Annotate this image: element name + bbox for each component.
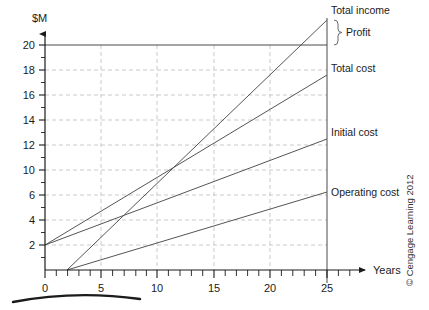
y-tick-label: 12 <box>23 139 35 151</box>
y-axis-title: $M <box>32 12 47 24</box>
x-axis-major-ticks <box>45 270 327 278</box>
y-tick-label: 18 <box>23 64 35 76</box>
series-label-initial-cost: Initial cost <box>331 126 378 138</box>
x-axis-minor-ticks <box>56 270 350 276</box>
y-tick-label: 16 <box>23 89 35 101</box>
series-label-operating-cost: Operating cost <box>331 186 399 198</box>
copyright-credit: © Cengage Learning 2012 <box>404 174 415 286</box>
chart-canvas: 20 18 16 14 12 10 6 4 2 $M <box>0 0 429 310</box>
profit-brace <box>334 20 342 45</box>
grid-vertical <box>101 45 270 270</box>
series-line-total-income <box>67 20 327 270</box>
series-label-total-cost: Total cost <box>331 62 375 74</box>
y-axis-major-ticks <box>39 45 45 245</box>
series-line-total-cost <box>45 75 327 245</box>
series-label-total-income: Total income <box>331 4 390 16</box>
x-tick-label: 25 <box>321 282 333 294</box>
y-axis-tick-labels: 20 18 16 14 12 10 6 4 2 <box>23 39 35 251</box>
grid-horizontal <box>45 70 327 245</box>
x-axis-title: Years <box>373 264 401 276</box>
y-tick-label: 4 <box>29 214 35 226</box>
x-tick-label: 5 <box>98 282 104 294</box>
x-tick-label: 20 <box>264 282 276 294</box>
decorative-arc <box>13 295 140 302</box>
series-line-operating-cost <box>67 192 327 270</box>
annotation-label-profit: Profit <box>346 26 371 38</box>
y-tick-label: 20 <box>23 39 35 51</box>
y-tick-label: 14 <box>23 114 35 126</box>
y-tick-label: 6 <box>29 189 35 201</box>
x-tick-label: 0 <box>42 282 48 294</box>
y-tick-label: 10 <box>23 164 35 176</box>
x-tick-label: 10 <box>151 282 163 294</box>
x-axis-tick-labels: 0 5 10 15 20 25 <box>42 282 333 294</box>
chart-figure: 20 18 16 14 12 10 6 4 2 $M <box>0 0 429 310</box>
x-tick-label: 15 <box>208 282 220 294</box>
y-tick-label: 2 <box>29 239 35 251</box>
